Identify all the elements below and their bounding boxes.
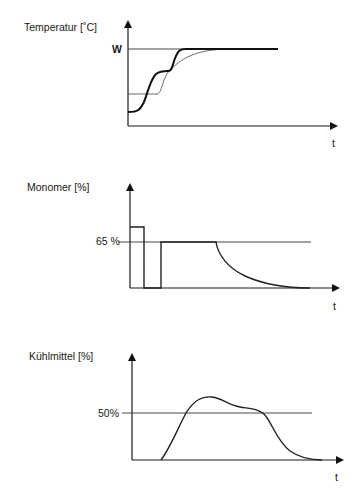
temperature-ylabel: Temperatur [˚C]: [24, 21, 97, 33]
time-label: t: [332, 137, 335, 149]
temperature-panel: Temperatur [˚C] W t: [24, 21, 336, 149]
actual-temperature-curve: [128, 49, 278, 112]
coolant-ylabel: Kühlmittel [%]: [29, 350, 93, 362]
process-diagram: Temperatur [˚C] W t Monomer [%] 65 % t K…: [0, 0, 361, 495]
monomer-ylabel: Monomer [%]: [27, 181, 90, 193]
monomer-panel: Monomer [%] 65 % t: [27, 181, 338, 312]
time-label: t: [335, 471, 338, 483]
monomer-ref-label: 65 %: [96, 235, 120, 247]
setpoint-trajectory-curve: [128, 50, 218, 95]
monomer-curve: [130, 227, 310, 288]
coolant-ref-label: 50%: [98, 407, 119, 419]
setpoint-label: W: [112, 43, 122, 55]
coolant-curve: [161, 397, 322, 460]
coolant-panel: Kühlmittel [%] 50% t: [29, 350, 342, 483]
time-label: t: [333, 300, 336, 312]
